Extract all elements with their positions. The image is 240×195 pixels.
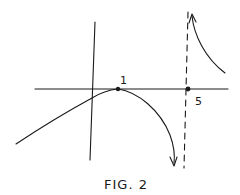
label-five: 5 — [195, 95, 202, 108]
asymptote-point-dot — [186, 87, 191, 92]
figure-canvas: 1 5 FIG. 2 — [0, 0, 240, 195]
y-axis — [90, 22, 95, 160]
figure-caption: FIG. 2 — [104, 177, 148, 192]
right-branch-curve — [192, 16, 225, 73]
left-branch-curve — [16, 89, 174, 163]
label-one: 1 — [120, 74, 127, 87]
down-arrow-icon — [170, 157, 177, 166]
tangent-point-dot — [116, 87, 120, 91]
